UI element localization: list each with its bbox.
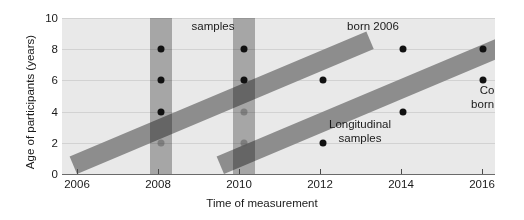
y-tick-label: 10 xyxy=(36,12,58,24)
data-point xyxy=(241,139,248,146)
x-tick-label: 2008 xyxy=(128,178,188,190)
cohort-band-2006 xyxy=(70,31,374,174)
data-point xyxy=(158,46,165,53)
x-tick-label: 2014 xyxy=(371,178,431,190)
x-tick-mark xyxy=(239,169,240,174)
data-point xyxy=(158,108,165,115)
cross-sectional-band-2008 xyxy=(150,18,172,174)
x-axis-title: Time of measurement xyxy=(0,197,524,209)
data-point xyxy=(241,108,248,115)
x-tick-mark xyxy=(77,169,78,174)
data-point xyxy=(241,77,248,84)
data-point xyxy=(400,108,407,115)
data-point xyxy=(320,77,327,84)
gridline-10 xyxy=(62,18,495,19)
annotation-cohort-2006: Cohort born 2006 xyxy=(328,18,418,33)
annotation-cross-sectional: Cross-sectional samples xyxy=(158,18,268,33)
x-tick-mark xyxy=(320,169,321,174)
annotation-cohort-2008: Cohort born 2008 xyxy=(452,84,495,111)
chart-figure: Cross-sectional samples Cohort born 2006… xyxy=(0,0,524,220)
x-tick-label: 2016 xyxy=(452,178,512,190)
data-point xyxy=(158,139,165,146)
x-tick-mark xyxy=(482,169,483,174)
y-tick-label: 2 xyxy=(36,137,58,149)
x-tick-label: 2012 xyxy=(290,178,350,190)
x-tick-label: 2006 xyxy=(47,178,107,190)
y-axis-title: Age of participants (years) xyxy=(24,22,36,182)
cross-sectional-band-2010 xyxy=(233,18,255,174)
x-axis: 2006 2008 2010 2012 2014 2016 xyxy=(0,174,524,198)
data-point xyxy=(400,46,407,53)
x-tick-mark xyxy=(158,169,159,174)
y-tick-label: 8 xyxy=(36,43,58,55)
x-tick-label: 2010 xyxy=(209,178,269,190)
y-tick-label: 4 xyxy=(36,106,58,118)
plot-area: Cross-sectional samples Cohort born 2006… xyxy=(62,18,495,174)
x-tick-mark xyxy=(401,169,402,174)
data-point xyxy=(158,77,165,84)
gridline-4 xyxy=(62,112,495,113)
y-tick-label: 6 xyxy=(36,74,58,86)
data-point xyxy=(480,46,487,53)
gridline-8 xyxy=(62,49,495,50)
data-point xyxy=(241,46,248,53)
data-point xyxy=(480,77,487,84)
annotation-longitudinal: Longitudinal samples xyxy=(310,118,410,145)
